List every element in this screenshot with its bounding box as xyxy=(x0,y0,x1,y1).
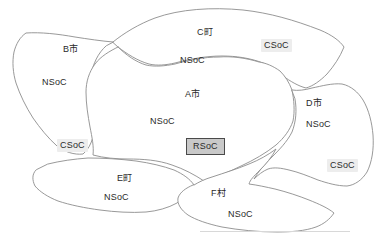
caption-divider-line xyxy=(200,231,350,232)
region-b-csoc-marker[interactable]: CSoC xyxy=(57,139,88,152)
region-b-name: B市 xyxy=(63,45,78,54)
municipality-soc-map: A市 NSoC RSoC B市 NSoC CSoC C町 NSoC CSoC D… xyxy=(0,0,382,239)
region-e-nsoc-label: NSoC xyxy=(104,193,129,202)
region-f-name: F村 xyxy=(211,189,226,198)
region-d-csoc-marker[interactable]: CSoC xyxy=(327,159,358,172)
region-a-nsoc-label: NSoC xyxy=(150,117,175,126)
region-c-csoc-marker[interactable]: CSoC xyxy=(261,39,292,52)
region-b-nsoc-label: NSoC xyxy=(42,78,67,87)
region-f-nsoc-label: NSoC xyxy=(228,210,253,219)
region-d-name: D市 xyxy=(306,99,322,108)
region-c-nsoc-label: NSoC xyxy=(180,56,205,65)
region-a-rsoc-marker[interactable]: RSoC xyxy=(186,138,225,155)
region-d-nsoc-label: NSoC xyxy=(306,120,331,129)
region-shape-e[interactable] xyxy=(33,158,194,212)
region-e-name: E町 xyxy=(117,174,132,183)
region-a-name: A市 xyxy=(185,90,200,99)
region-c-name: C町 xyxy=(197,28,213,37)
